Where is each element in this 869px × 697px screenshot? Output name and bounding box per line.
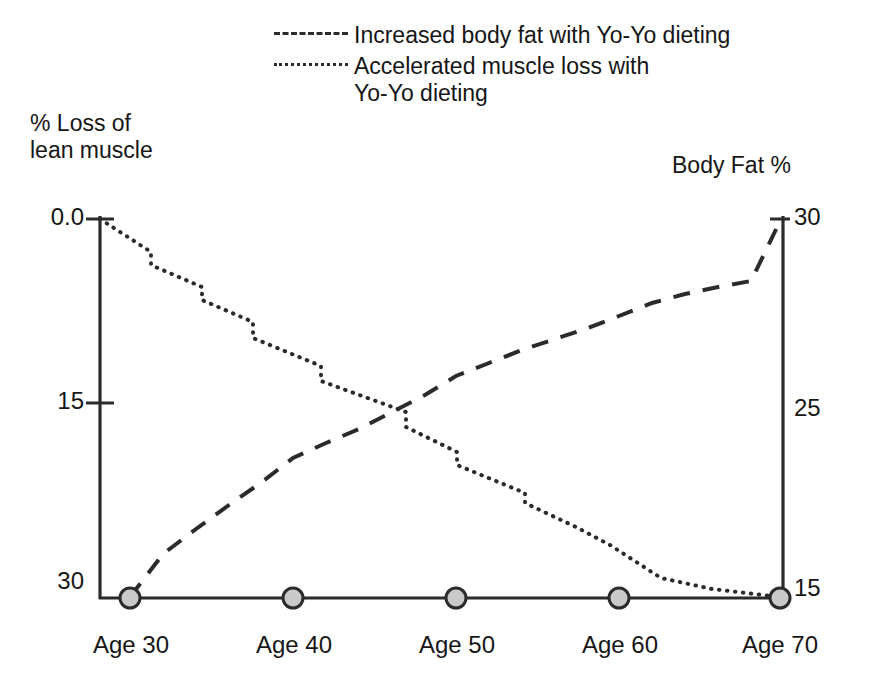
x-marker-age-40 — [283, 588, 303, 608]
plot-area — [0, 0, 869, 697]
x-marker-age-30 — [120, 588, 140, 608]
series-line-muscle-loss — [100, 219, 780, 597]
chart-canvas: Increased body fat with Yo-Yo dieting Ac… — [0, 0, 869, 697]
axis-ticks — [86, 219, 790, 403]
x-marker-age-70 — [770, 588, 790, 608]
x-marker-age-50 — [446, 588, 466, 608]
x-marker-age-60 — [609, 588, 629, 608]
axis-lines — [99, 216, 784, 599]
series-line-body-fat — [130, 219, 781, 597]
